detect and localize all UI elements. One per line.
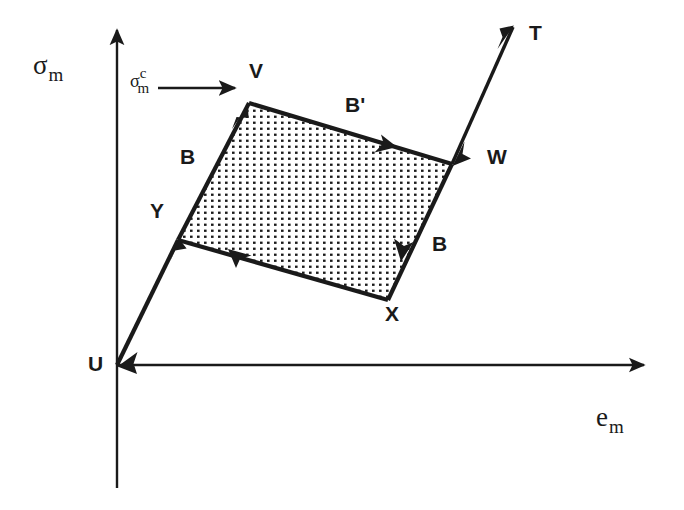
edge-label-b-prime: B'	[345, 94, 365, 115]
edge-label-b-left: B	[180, 146, 195, 167]
y-axis-label: σm	[33, 52, 62, 79]
stress-strain-diagram	[0, 0, 684, 510]
vertex-label-w: W	[487, 146, 507, 167]
critical-stress-label: σcm	[130, 72, 158, 90]
shaded-loop-region	[178, 103, 452, 300]
vertex-label-x: X	[385, 303, 399, 324]
ray-label-t: T	[529, 22, 542, 43]
critical-stress-superscript: c	[140, 65, 147, 81]
vertex-label-y: Y	[150, 200, 164, 221]
critical-stress-subscript: m	[137, 80, 149, 96]
vertex-label-u: U	[88, 353, 103, 374]
edge-label-b-right: B	[432, 233, 447, 254]
ray-w-to-t	[452, 27, 513, 164]
vertex-label-v: V	[249, 60, 263, 81]
x-axis-label-symbol: e	[596, 402, 608, 432]
y-axis-label-subscript: m	[49, 64, 64, 85]
segment-u-y	[117, 240, 178, 365]
x-axis-label: em	[596, 404, 623, 431]
x-axis-label-subscript: m	[609, 416, 624, 437]
y-axis-label-symbol: σ	[33, 50, 48, 80]
